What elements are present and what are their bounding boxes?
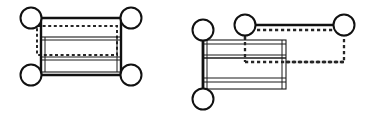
right-panel bbox=[193, 15, 355, 110]
left-joint-top-right[interactable] bbox=[121, 8, 142, 29]
figure-root: Two mechanism linkage diagrams bbox=[0, 0, 371, 118]
linkage-diagram-canvas bbox=[0, 0, 371, 118]
left-body-fill bbox=[41, 37, 121, 72]
left-joint-top-left[interactable] bbox=[21, 8, 42, 29]
left-joint-bottom-left[interactable] bbox=[21, 65, 42, 86]
right-joint-mid-upper[interactable] bbox=[235, 15, 256, 36]
left-panel bbox=[21, 8, 142, 86]
right-joint-right-upper[interactable] bbox=[334, 15, 355, 36]
right-joint-left-upper[interactable] bbox=[193, 20, 214, 41]
left-joint-bottom-right[interactable] bbox=[121, 65, 142, 86]
right-joint-left-lower[interactable] bbox=[193, 89, 214, 110]
